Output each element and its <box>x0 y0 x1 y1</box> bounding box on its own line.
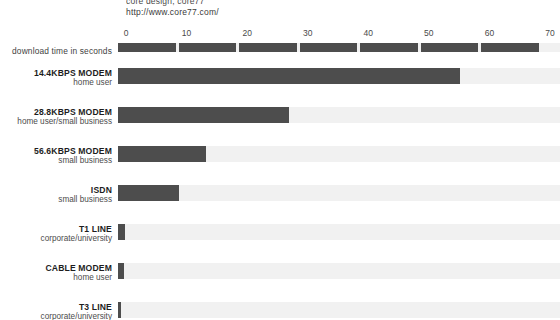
chart-row: T3 LINEcorporate/university <box>0 302 560 320</box>
axis-tick-30: 30 <box>303 28 312 38</box>
row-gap <box>0 166 560 185</box>
row-label-sub: corporate/university <box>0 312 112 320</box>
x-axis-ticks: 010203040506070 <box>0 28 560 42</box>
chart-rows: download time in seconds14.4KBPS MODEMho… <box>0 43 560 320</box>
axis-tick-0: 0 <box>124 28 129 38</box>
chart-row: CABLE MODEMhome user <box>0 263 560 283</box>
row-label-cell: 28.8KBPS MODEMhome user/small business <box>0 107 118 127</box>
source-url: http://www.core77.com/ <box>126 7 219 17</box>
bar-track <box>118 224 560 240</box>
bar <box>118 302 121 318</box>
axis-tick-50: 50 <box>424 28 433 38</box>
row-label-name: 28.8KBPS MODEM <box>0 107 112 117</box>
row-label-cell: CABLE MODEMhome user <box>0 263 118 283</box>
bar-track <box>118 302 560 318</box>
row-gap <box>0 127 560 146</box>
bar-track <box>118 107 560 123</box>
axis-segment <box>421 43 479 52</box>
row-label-cell: 14.4KBPS MODEMhome user <box>0 68 118 88</box>
axis-segment <box>300 43 358 52</box>
bar-track <box>118 146 560 162</box>
chart-row: 56.6KBPS MODEMsmall business <box>0 146 560 166</box>
axis-tick-20: 20 <box>242 28 251 38</box>
axis-segment <box>118 43 176 52</box>
row-gap <box>0 88 560 107</box>
axis-tick-40: 40 <box>364 28 373 38</box>
bar <box>118 68 460 84</box>
download-time-chart: core design, core77 http://www.core77.co… <box>0 0 560 320</box>
row-label-sub: small business <box>0 195 112 205</box>
row-label-cell: T3 LINEcorporate/university <box>0 302 118 320</box>
row-label-cell: ISDNsmall business <box>0 185 118 205</box>
row-gap <box>0 244 560 263</box>
row-label-sub: home user/small business <box>0 117 112 127</box>
row-label-sub: corporate/university <box>0 234 112 244</box>
row-label-sub: home user <box>0 78 112 88</box>
chart-row: 14.4KBPS MODEMhome user <box>0 68 560 88</box>
bar <box>118 107 289 123</box>
row-label-name: CABLE MODEM <box>0 263 112 273</box>
row-label-cell: 56.6KBPS MODEMsmall business <box>0 146 118 166</box>
credit-line: core design, core77 <box>126 0 204 6</box>
row-label-name: ISDN <box>0 185 112 195</box>
row-label-name: 56.6KBPS MODEM <box>0 146 112 156</box>
bar <box>118 146 206 162</box>
bar-track <box>118 263 560 279</box>
row-gap <box>0 205 560 224</box>
axis-tick-70: 70 <box>545 28 554 38</box>
axis-segment <box>179 43 237 52</box>
axis-title: download time in seconds <box>0 46 112 56</box>
axis-label-cell: download time in seconds <box>0 43 118 56</box>
chart-row: ISDNsmall business <box>0 185 560 205</box>
row-label-sub: home user <box>0 273 112 283</box>
axis-row: download time in seconds <box>0 43 560 56</box>
row-label-sub: small business <box>0 156 112 166</box>
bar-track <box>118 185 560 201</box>
chart-row: T1 LINEcorporate/university <box>0 224 560 244</box>
axis-segment <box>360 43 418 52</box>
row-label-cell: T1 LINEcorporate/university <box>0 224 118 244</box>
axis-tick-10: 10 <box>182 28 191 38</box>
bar-track <box>118 68 560 84</box>
axis-segment <box>239 43 297 52</box>
row-label-name: T1 LINE <box>0 224 112 234</box>
axis-strip <box>118 43 560 52</box>
axis-segment <box>481 43 539 52</box>
row-label-name: T3 LINE <box>0 302 112 312</box>
bar <box>118 263 124 279</box>
row-label-name: 14.4KBPS MODEM <box>0 68 112 78</box>
axis-gap <box>0 56 560 68</box>
row-gap <box>0 283 560 302</box>
axis-tick-60: 60 <box>485 28 494 38</box>
bar <box>118 185 179 201</box>
bar <box>118 224 125 240</box>
chart-row: 28.8KBPS MODEMhome user/small business <box>0 107 560 127</box>
